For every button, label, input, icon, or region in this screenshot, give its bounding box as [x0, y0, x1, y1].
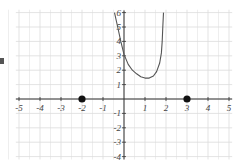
- x-tick-label: -3: [57, 103, 65, 113]
- y-tick-label: 2: [117, 65, 122, 75]
- x-tick-label: 2: [164, 103, 169, 113]
- y-tick-label: -2: [114, 123, 122, 133]
- y-tick-label: 1: [117, 80, 122, 90]
- x-tick-label: 3: [184, 103, 190, 113]
- y-tick-label: -4: [114, 152, 122, 162]
- x-tick-label: -5: [15, 103, 23, 113]
- x-tick-label: -2: [78, 103, 86, 113]
- function-curve: [115, 13, 164, 79]
- y-tick-label: -1: [114, 108, 122, 118]
- x-tick-label: -1: [99, 103, 107, 113]
- x-tick-label: -4: [36, 103, 44, 113]
- filled-point: [78, 95, 85, 102]
- function-graph: -5-4-3-2-112345-4-3-2-1123456: [0, 0, 235, 163]
- x-tick-label: 4: [206, 103, 211, 113]
- filled-point: [183, 95, 190, 102]
- y-tick-label: 6: [117, 8, 122, 18]
- y-tick-label: 3: [116, 51, 122, 61]
- cropped-text-fragment: [0, 58, 4, 64]
- x-tick-label: 1: [143, 103, 148, 113]
- x-tick-label: 5: [227, 103, 232, 113]
- y-tick-label: -3: [114, 137, 122, 147]
